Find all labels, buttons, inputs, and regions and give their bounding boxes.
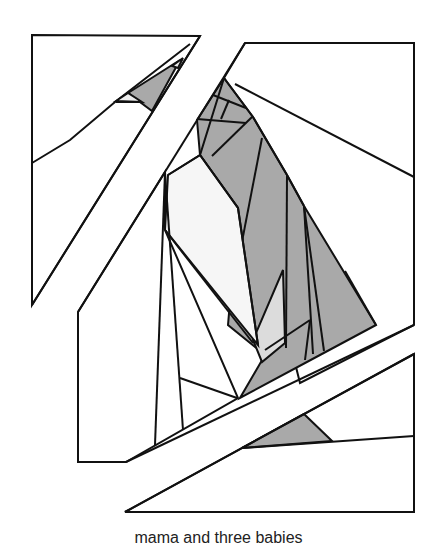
quilt-illustration [0,0,437,520]
caption: mama and three babies [0,529,437,547]
